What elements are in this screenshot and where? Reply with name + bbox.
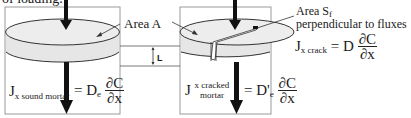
equation-sound-rhs: = De ∂C∂x bbox=[74, 76, 124, 105]
flux-arrow-out-right bbox=[230, 62, 243, 114]
thickness-label: L bbox=[157, 52, 163, 65]
area-sf-description: perpendicular to fluxes bbox=[296, 18, 407, 31]
area-a-label: Area A bbox=[124, 17, 161, 30]
sound-mortar-disc bbox=[6, 19, 120, 62]
equation-crack: Jx crack = D ∂C∂x bbox=[295, 32, 377, 61]
equation-cracked-mortar: J x crackedmortar bbox=[185, 80, 229, 100]
equation-cracked-rhs: = D'e ∂C∂x bbox=[244, 76, 297, 105]
fraction-dC-dx: ∂C∂x bbox=[105, 76, 124, 105]
equation-sound-mortar: Jx sound mortar bbox=[9, 84, 69, 101]
